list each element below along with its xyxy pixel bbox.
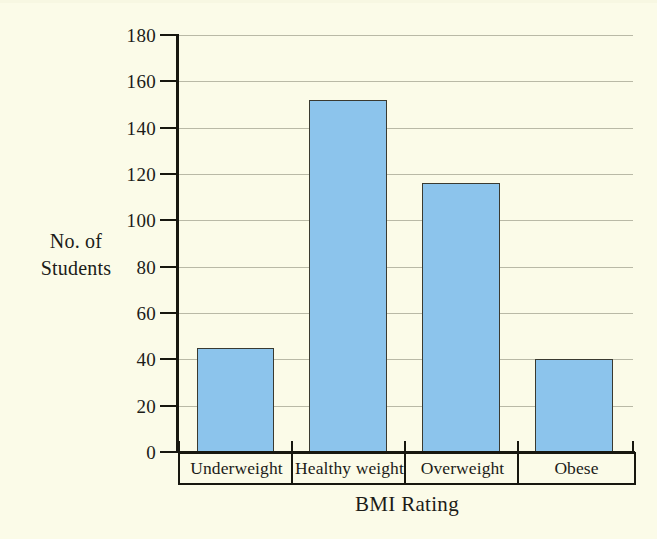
y-tick-label-100: 100 xyxy=(96,211,156,230)
y-tick-label-140: 140 xyxy=(96,119,156,138)
y-tick-label-180: 180 xyxy=(96,26,156,45)
y-tick-0 xyxy=(160,451,179,453)
x-category-label-healthy-weight: Healthy weight xyxy=(293,454,406,483)
page-top-edge xyxy=(0,0,657,3)
bar-healthy-weight xyxy=(309,100,387,452)
gridline-180 xyxy=(179,35,633,36)
y-tick-label-20: 20 xyxy=(96,397,156,416)
y-tick-label-40: 40 xyxy=(96,350,156,369)
gridline-80 xyxy=(179,267,633,268)
y-tick-100 xyxy=(160,219,179,221)
gridline-100 xyxy=(179,220,633,221)
y-tick-60 xyxy=(160,312,179,314)
y-tick-140 xyxy=(160,127,179,129)
x-axis-category-band: Underweight Healthy weight Overweight Ob… xyxy=(178,452,636,485)
gridline-140 xyxy=(179,128,633,129)
x-axis-title: BMI Rating xyxy=(178,492,636,517)
y-tick-label-80: 80 xyxy=(96,258,156,277)
x-category-label-overweight: Overweight xyxy=(406,454,519,483)
y-axis-line xyxy=(176,34,179,453)
y-tick-label-60: 60 xyxy=(96,304,156,323)
bar-chart: No. of Students 180 160 140 120 100 80 6… xyxy=(0,0,657,539)
y-tick-180 xyxy=(160,34,179,36)
y-tick-label-0: 0 xyxy=(96,443,156,462)
x-category-label-underweight: Underweight xyxy=(180,454,293,483)
gridline-60 xyxy=(179,313,633,314)
y-tick-40 xyxy=(160,358,179,360)
plot-area xyxy=(179,35,633,452)
y-tick-160 xyxy=(160,80,179,82)
bar-underweight xyxy=(197,348,274,452)
x-category-label-obese: Obese xyxy=(519,454,634,483)
gridline-160 xyxy=(179,81,633,82)
gridline-120 xyxy=(179,174,633,175)
y-tick-label-160: 160 xyxy=(96,72,156,91)
y-tick-20 xyxy=(160,405,179,407)
bar-obese xyxy=(535,359,613,452)
y-axis-title-line-1: No. of xyxy=(18,228,134,255)
y-tick-80 xyxy=(160,266,179,268)
y-tick-label-120: 120 xyxy=(96,165,156,184)
bar-overweight xyxy=(422,183,500,452)
y-tick-120 xyxy=(160,173,179,175)
